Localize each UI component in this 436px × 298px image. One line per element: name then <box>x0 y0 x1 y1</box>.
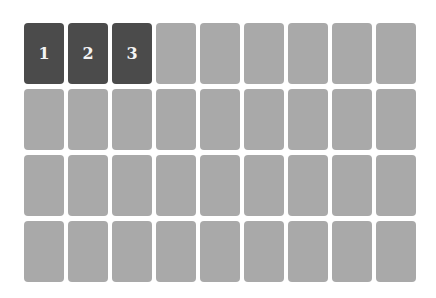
card-1[interactable]: 1 <box>24 23 64 84</box>
card-20[interactable] <box>68 155 108 216</box>
card-11[interactable] <box>68 89 108 150</box>
card-14[interactable] <box>200 89 240 150</box>
card-29[interactable] <box>68 221 108 282</box>
card-17[interactable] <box>332 89 372 150</box>
card-16[interactable] <box>288 89 328 150</box>
card-21[interactable] <box>112 155 152 216</box>
card-grid: 123 <box>24 23 416 282</box>
card-10[interactable] <box>24 89 64 150</box>
card-26[interactable] <box>332 155 372 216</box>
card-34[interactable] <box>288 221 328 282</box>
card-5[interactable] <box>200 23 240 84</box>
card-2[interactable]: 2 <box>68 23 108 84</box>
card-33[interactable] <box>244 221 284 282</box>
card-27[interactable] <box>376 155 416 216</box>
card-32[interactable] <box>200 221 240 282</box>
card-15[interactable] <box>244 89 284 150</box>
card-25[interactable] <box>288 155 328 216</box>
card-35[interactable] <box>332 221 372 282</box>
card-13[interactable] <box>156 89 196 150</box>
card-8[interactable] <box>332 23 372 84</box>
card-3[interactable]: 3 <box>112 23 152 84</box>
card-36[interactable] <box>376 221 416 282</box>
card-28[interactable] <box>24 221 64 282</box>
card-18[interactable] <box>376 89 416 150</box>
card-24[interactable] <box>244 155 284 216</box>
card-22[interactable] <box>156 155 196 216</box>
card-23[interactable] <box>200 155 240 216</box>
card-19[interactable] <box>24 155 64 216</box>
card-6[interactable] <box>244 23 284 84</box>
card-9[interactable] <box>376 23 416 84</box>
card-12[interactable] <box>112 89 152 150</box>
card-31[interactable] <box>156 221 196 282</box>
card-30[interactable] <box>112 221 152 282</box>
card-7[interactable] <box>288 23 328 84</box>
card-4[interactable] <box>156 23 196 84</box>
